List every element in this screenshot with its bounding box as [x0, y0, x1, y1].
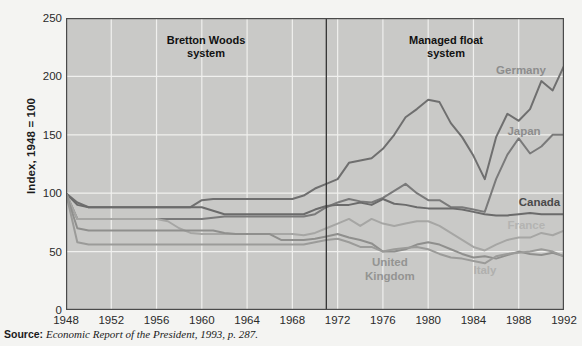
source-note: Source: Economic Report of the President…: [4, 328, 258, 340]
series-label-japan: Japan: [507, 125, 540, 139]
x-tick-1956: 1956: [134, 314, 180, 326]
series-label-canada: Canada: [519, 196, 561, 210]
plot-area: Bretton Woods system Managed float syste…: [66, 18, 564, 310]
source-label: Source:: [4, 328, 43, 340]
x-tick-1992: 1992: [541, 314, 582, 326]
x-tick-1960: 1960: [179, 314, 225, 326]
y-tick-100: 100: [28, 187, 62, 199]
x-tick-1968: 1968: [269, 314, 315, 326]
x-tick-1984: 1984: [450, 314, 496, 326]
series-label-united-kingdom: United Kingdom: [365, 256, 415, 283]
x-tick-1976: 1976: [360, 314, 406, 326]
y-tick-50: 50: [28, 246, 62, 258]
x-tick-1980: 1980: [405, 314, 451, 326]
x-tick-1972: 1972: [315, 314, 361, 326]
annotation-managed-float: Managed float system: [366, 34, 526, 61]
series-label-germany: Germany: [496, 64, 546, 78]
source-text: Economic Report of the President, 1993, …: [46, 328, 258, 340]
y-axis-tick-labels: 050100150200250: [26, 0, 62, 346]
y-tick-250: 250: [28, 12, 62, 24]
y-tick-150: 150: [28, 129, 62, 141]
y-tick-200: 200: [28, 70, 62, 82]
x-tick-1988: 1988: [496, 314, 542, 326]
series-label-italy: Italy: [473, 264, 496, 278]
x-tick-1948: 1948: [43, 314, 89, 326]
annotation-bretton-woods: Bretton Woods system: [126, 34, 286, 61]
chart-figure: Index, 1948 = 100 050100150200250 Bretto…: [0, 0, 582, 346]
series-label-france: France: [507, 219, 545, 233]
x-tick-1952: 1952: [88, 314, 134, 326]
x-tick-1964: 1964: [224, 314, 270, 326]
